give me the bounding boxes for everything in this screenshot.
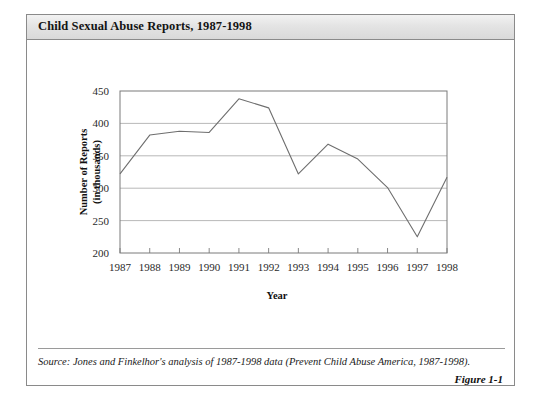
- x-axis-tick-labels: 1987198819891990199119921993199419951996…: [109, 261, 459, 273]
- y-axis-title-line1: Number of Reports: [78, 129, 89, 216]
- x-tick-label: 1996: [377, 261, 400, 273]
- x-tick-label: 1989: [168, 261, 191, 273]
- x-tick-label: 1991: [228, 261, 250, 273]
- x-tick-label: 1988: [139, 261, 162, 273]
- gridlines-group: [120, 123, 447, 220]
- y-tick-label: 200: [93, 247, 110, 259]
- figure-header-bar: Child Sexual Abuse Reports, 1987-1998: [27, 15, 514, 40]
- source-note: Source: Jones and Finkelhor's analysis o…: [38, 355, 500, 369]
- data-series-line: [120, 99, 447, 237]
- x-tick-label: 1993: [287, 261, 310, 273]
- figure-number-label: Figure 1-1: [454, 373, 503, 385]
- y-tick-label: 250: [93, 215, 110, 227]
- x-tick-label: 1997: [406, 261, 429, 273]
- footer-divider: [38, 348, 505, 349]
- figure-container: Child Sexual Abuse Reports, 1987-1998 20…: [26, 14, 515, 386]
- x-tick-label: 1994: [317, 261, 340, 273]
- x-tick-label: 1992: [258, 261, 280, 273]
- y-axis-title-line2: (in thousands): [91, 140, 103, 204]
- y-tick-label: 400: [93, 117, 110, 129]
- x-tick-label: 1995: [347, 261, 370, 273]
- x-axis-tick-marks: [120, 248, 447, 253]
- x-tick-label: 1987: [109, 261, 132, 273]
- line-chart-svg: 200250300350400450 198719881989199019911…: [27, 41, 516, 346]
- x-axis-title: Year: [267, 290, 288, 301]
- chart-plot-area: 200250300350400450 198719881989199019911…: [27, 41, 514, 346]
- y-tick-label: 450: [93, 85, 110, 97]
- x-tick-label: 1998: [436, 261, 459, 273]
- plot-frame: [120, 91, 447, 253]
- figure-title: Child Sexual Abuse Reports, 1987-1998: [38, 19, 252, 34]
- x-tick-label: 1990: [198, 261, 221, 273]
